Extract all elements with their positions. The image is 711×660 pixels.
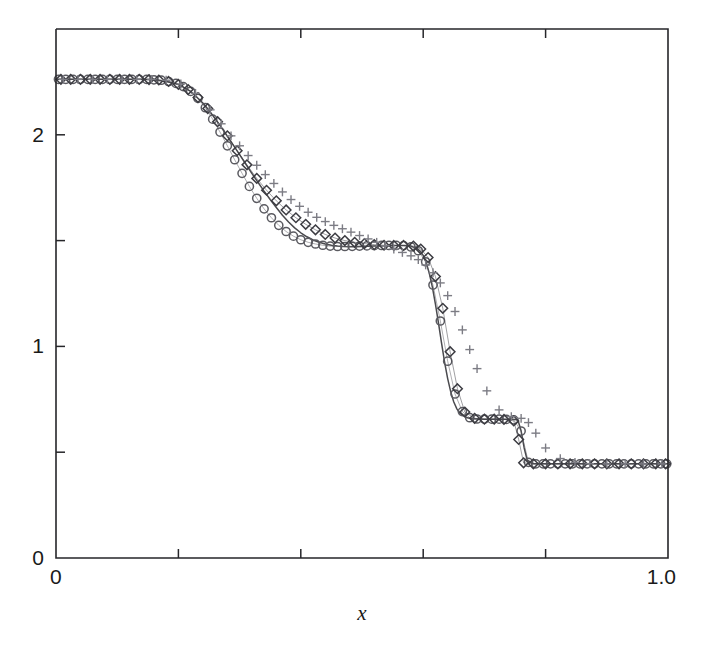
density-profile-chart: x 01201.0 bbox=[0, 0, 711, 660]
y-tick-label-1: 1 bbox=[32, 334, 44, 357]
x-axis-label: x bbox=[356, 601, 367, 625]
x-tick-label-0: 0 bbox=[50, 565, 62, 588]
y-tick-label-0: 0 bbox=[32, 546, 44, 569]
figure-container: x 01201.0 bbox=[0, 0, 711, 660]
y-tick-label-2: 2 bbox=[32, 123, 44, 146]
chart-background bbox=[0, 0, 711, 660]
x-tick-label-1: 1.0 bbox=[647, 565, 676, 588]
